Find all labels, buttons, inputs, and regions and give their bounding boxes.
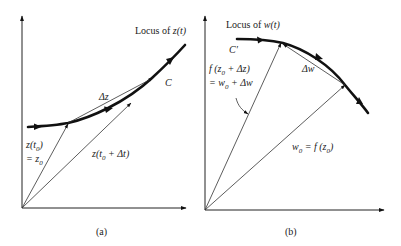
panel-a: Locus of z(t) C Δz z(t0) = z0 z(t0 + Δt)… xyxy=(22,16,187,238)
f-z0-plus-dz-label: f (z0 + Δz) xyxy=(209,63,251,77)
label-pointer-arrow xyxy=(236,98,248,114)
eq-z0-label: = z0 xyxy=(26,153,43,167)
mapping-diagram: Locus of z(t) C Δz z(t0) = z0 z(t0 + Δt)… xyxy=(0,0,401,246)
delta-w-label: Δw xyxy=(301,63,315,74)
caption-b: (b) xyxy=(285,226,297,238)
caption-a: (a) xyxy=(96,226,107,238)
locus-label-b: Locus of w(t) xyxy=(226,19,281,31)
vector-z0 xyxy=(22,124,68,208)
panel-b: Locus of w(t) C′ Δw f (z0 + Δz) = w0 + Δ… xyxy=(205,16,384,238)
curve-direction-arrow xyxy=(34,124,42,131)
eq-w0-plus-dw-label: = w0 + Δw xyxy=(209,77,253,91)
locus-curve-c xyxy=(28,45,185,127)
locus-label-a: Locus of z(t) xyxy=(135,25,187,37)
vector-delta-z xyxy=(68,78,153,123)
z-t0-plus-dt-label: z(t0 + Δt) xyxy=(91,148,130,162)
delta-z-label: Δz xyxy=(98,91,109,102)
curve-label-c-prime: C′ xyxy=(229,44,239,55)
curve-label-c: C xyxy=(165,77,172,88)
curve-direction-arrow xyxy=(257,37,264,44)
curve-direction-arrow xyxy=(315,53,323,60)
z-t0-label: z(t0) xyxy=(25,139,44,153)
w0-eq-f-z0-label: w0 = f (z0) xyxy=(292,141,334,155)
locus-curve-c-prime xyxy=(237,39,368,113)
